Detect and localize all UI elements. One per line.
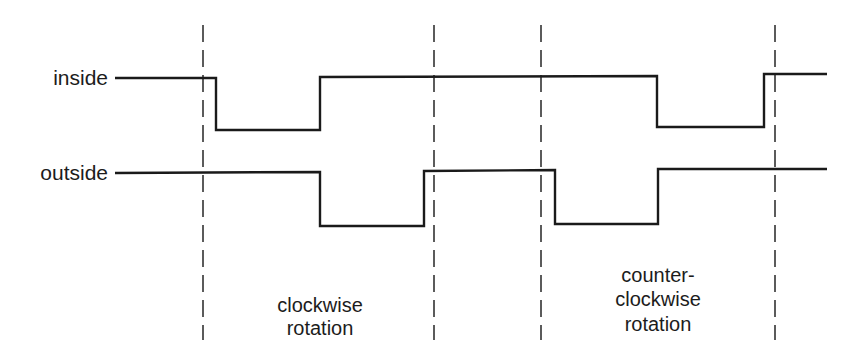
waveform-inside <box>115 74 827 130</box>
phase-label-line: clockwise <box>615 288 701 310</box>
rotation-direction-labels: clockwiserotationcounter-clockwiserotati… <box>277 264 701 339</box>
signal-label-outside: outside <box>40 161 108 184</box>
phase-label-clockwise: clockwiserotation <box>277 294 363 339</box>
phase-label-line: rotation <box>625 313 692 335</box>
signal-label-inside: inside <box>53 66 108 89</box>
phase-label-line: clockwise <box>277 294 363 316</box>
signal-inside: inside <box>53 66 827 130</box>
waveform-outside <box>115 169 827 226</box>
phase-label-line: rotation <box>287 317 354 339</box>
phase-label-counter-clockwise: counter-clockwiserotation <box>615 264 701 335</box>
phase-label-line: counter- <box>621 264 694 286</box>
timing-diagram: insideoutside clockwiserotationcounter-c… <box>0 0 847 352</box>
